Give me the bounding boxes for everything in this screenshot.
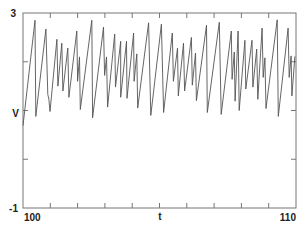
y-min-label: -1 [9,203,18,214]
y-axis-label: V [12,108,19,119]
y-max-label: 3 [10,8,16,19]
chart: 3 -1 V 100 110 t [0,0,308,232]
x-min-label: 100 [24,212,41,223]
voltage-trace [23,20,295,126]
x-max-label: 110 [280,212,297,223]
x-axis-label: t [158,211,162,222]
